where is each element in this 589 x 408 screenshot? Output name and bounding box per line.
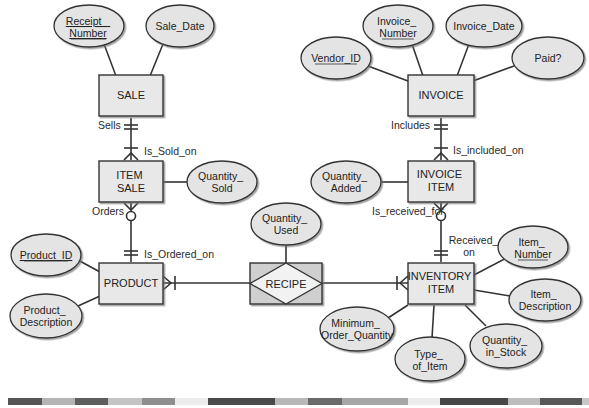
entity-label: SALE (117, 89, 145, 101)
entity-label: RECIPE (266, 278, 307, 290)
svg-text:Receipt_ Number: Receipt_ Number (66, 15, 110, 39)
svg-text:Quantity_ in_Stock: Quantity_ in_Stock (482, 334, 530, 358)
svg-text:Paid?: Paid? (535, 52, 562, 64)
entity-inventory-item[interactable]: INVENTORY ITEM (408, 263, 475, 304)
associative-entity-recipe[interactable]: RECIPE (250, 263, 322, 304)
attribute-type-of-item[interactable]: Type_ of_Item (395, 337, 465, 381)
entity-item-sale[interactable]: ITEM SALE (99, 161, 163, 202)
er-diagram: Sells Is_Sold_on Orders Is_Ordered_on In… (0, 0, 589, 408)
entity-invoice[interactable]: INVOICE (408, 75, 474, 116)
attribute-invoice-number[interactable]: Invoice_ Number (363, 5, 433, 47)
footer-bar-segment (175, 398, 208, 405)
svg-text:Invoice_ Number: Invoice_ Number (377, 15, 419, 39)
rel-label-is-included-on: Is_included_on (453, 144, 524, 156)
footer-bar-segment (108, 398, 142, 405)
rel-label-includes: Includes (391, 119, 430, 131)
footer-bar-segment (508, 398, 540, 405)
attribute-quantity-added[interactable]: Quantity_ Added (311, 161, 381, 203)
footer-bar-segment (308, 398, 342, 405)
entity-label: PRODUCT (104, 277, 159, 289)
rel-label-is-received-for: Is_received_for (372, 205, 444, 217)
footer-bar-segment (582, 398, 589, 405)
attribute-minimum-order-quantity[interactable]: Minimum_ Order_Quantity (320, 307, 394, 351)
rel-label-is-sold-on: Is_Sold_on (144, 145, 197, 157)
entity-invoice-item[interactable]: INVOICE ITEM (408, 161, 474, 202)
attribute-item-number[interactable]: Item_ Number (498, 226, 568, 268)
attribute-vendor-id[interactable]: Vendor_ID (301, 37, 371, 79)
entity-label: ITEM SALE (116, 169, 145, 194)
attribute-paid[interactable]: Paid? (512, 37, 584, 79)
rel-label-sells: Sells (98, 119, 121, 131)
entity-sale[interactable]: SALE (99, 75, 163, 116)
footer-bar-segment (42, 398, 75, 405)
footer-bar-segment (540, 398, 582, 405)
entity-label: INVOICE (418, 89, 463, 101)
attribute-quantity-used[interactable]: Quantity_ Used (251, 203, 321, 245)
attribute-product-id[interactable]: Product_ID (11, 234, 81, 276)
footer-bar-segment (8, 398, 42, 405)
attribute-item-description[interactable]: Item_ Description (509, 279, 581, 321)
svg-text:Vendor_ID: Vendor_ID (311, 52, 361, 64)
entity-product[interactable]: PRODUCT (99, 263, 163, 304)
rel-label-orders: Orders (92, 205, 124, 217)
svg-text:Item_ Number: Item_ Number (514, 236, 552, 260)
footer-bar-segment (440, 398, 508, 405)
footer-bar-segment (275, 398, 308, 405)
svg-text:Type_ of_Item: Type_ of_Item (412, 348, 447, 372)
attribute-product-description[interactable]: Product_ Description (10, 294, 82, 338)
footer-bar-segment (208, 398, 275, 405)
footer-bar-segment (142, 398, 175, 405)
rel-label-received-on: Received_ on (449, 234, 502, 258)
svg-text:Invoice_Date: Invoice_Date (453, 20, 514, 32)
attribute-invoice-date[interactable]: Invoice_Date (446, 5, 522, 47)
svg-text:Product_ID: Product_ID (20, 249, 73, 261)
svg-text:Product_ Description: Product_ Description (20, 304, 73, 328)
footer-bar-segment (75, 398, 108, 405)
rel-label-is-ordered-on: Is_Ordered_on (144, 248, 214, 260)
attribute-quantity-in-stock[interactable]: Quantity_ in_Stock (470, 324, 542, 368)
attribute-receipt-number[interactable]: Receipt_ Number (54, 5, 124, 47)
footer-bar-segment (342, 398, 408, 405)
attribute-sale-date[interactable]: Sale_Date (146, 5, 214, 47)
footer-bar-segment (408, 398, 440, 405)
attribute-quantity-sold[interactable]: Quantity_ Sold (187, 161, 257, 203)
svg-text:Sale_Date: Sale_Date (155, 20, 204, 32)
